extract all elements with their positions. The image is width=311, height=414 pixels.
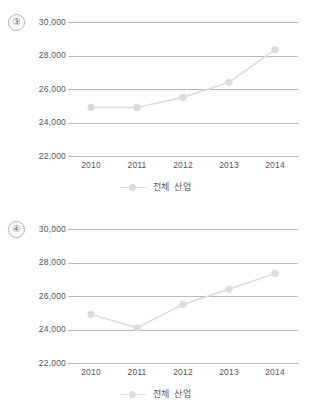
series-graphic	[68, 22, 298, 156]
data-point-marker	[271, 270, 278, 277]
series-line	[91, 273, 275, 327]
gridline	[68, 363, 298, 364]
chart-block-4: ④ 30,000 28,000 26,000 24,000 22,000 201…	[0, 207, 311, 414]
x-axis-tick-label: 2012	[163, 160, 203, 170]
legend-label: 전체 산업	[153, 389, 192, 399]
chart-block-3: ③ 30,000 28,000 26,000 24,000 22,000 201…	[0, 0, 311, 207]
legend-label: 전체 산업	[153, 182, 192, 192]
x-axis-tick-label: 2014	[255, 367, 295, 377]
legend-4: 전체 산업	[0, 386, 311, 402]
y-axis-tick-label: 26,000	[22, 85, 66, 94]
x-axis-tick-label: 2010	[71, 160, 111, 170]
gridline	[68, 156, 298, 157]
y-axis-tick-label: 22,000	[22, 359, 66, 368]
legend-3: 전체 산업	[0, 179, 311, 195]
data-point-marker	[87, 311, 94, 318]
x-axis-labels-4: 2010 2011 2012 2013 2014	[68, 367, 298, 381]
x-axis-labels-3: 2010 2011 2012 2013 2014	[68, 160, 298, 174]
x-axis-tick-label: 2013	[209, 367, 249, 377]
x-axis-tick-label: 2013	[209, 160, 249, 170]
y-axis-tick-label: 30,000	[22, 18, 66, 27]
y-axis-tick-label: 28,000	[22, 51, 66, 60]
x-axis-tick-label: 2011	[117, 367, 157, 377]
data-point-marker	[133, 324, 140, 331]
series-graphic	[68, 229, 298, 363]
x-axis-tick-label: 2011	[117, 160, 157, 170]
data-point-marker	[225, 79, 232, 86]
x-axis-tick-label: 2012	[163, 367, 203, 377]
legend-marker-icon	[120, 183, 146, 192]
y-axis-tick-label: 22,000	[22, 152, 66, 161]
x-axis-tick-label: 2014	[255, 160, 295, 170]
data-point-marker	[133, 104, 140, 111]
legend-marker-icon	[120, 390, 146, 399]
y-axis-tick-label: 30,000	[22, 225, 66, 234]
data-point-marker	[179, 301, 186, 308]
data-point-marker	[225, 286, 232, 293]
y-axis-tick-label: 28,000	[22, 258, 66, 267]
y-axis-tick-label: 26,000	[22, 292, 66, 301]
plot-area-4	[68, 229, 298, 363]
x-axis-tick-label: 2010	[71, 367, 111, 377]
y-axis-labels-4: 30,000 28,000 26,000 24,000 22,000	[22, 207, 66, 414]
plot-area-3	[68, 22, 298, 156]
y-axis-tick-label: 24,000	[22, 325, 66, 334]
data-point-marker	[179, 94, 186, 101]
y-axis-labels-3: 30,000 28,000 26,000 24,000 22,000	[22, 0, 66, 207]
y-axis-tick-label: 24,000	[22, 118, 66, 127]
data-point-marker	[87, 104, 94, 111]
worksheet-page: ③ 30,000 28,000 26,000 24,000 22,000 201…	[0, 0, 311, 414]
data-point-marker	[271, 46, 278, 53]
